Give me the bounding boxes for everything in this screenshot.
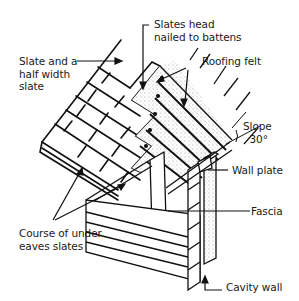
diagram-drawing: [0, 0, 299, 301]
label-slates-head-nailed: Slates head nailed to battens: [154, 18, 241, 43]
label-fascia: Fascia: [251, 205, 283, 218]
fascia-wall: [86, 142, 232, 290]
label-wall-plate: Wall plate: [232, 164, 283, 177]
label-course-under-eaves: Course of under eaves slates: [19, 227, 102, 252]
label-roofing-felt: Roofing felt: [202, 55, 261, 68]
arrow-head-icon: [115, 58, 122, 64]
label-cavity-wall: Cavity wall: [226, 281, 282, 294]
label-slope: Slope 30°: [243, 120, 272, 145]
roof-eaves-diagram: Slate and a half width slate Slates head…: [0, 0, 299, 301]
label-slate-and-half: Slate and a half width slate: [19, 55, 77, 93]
